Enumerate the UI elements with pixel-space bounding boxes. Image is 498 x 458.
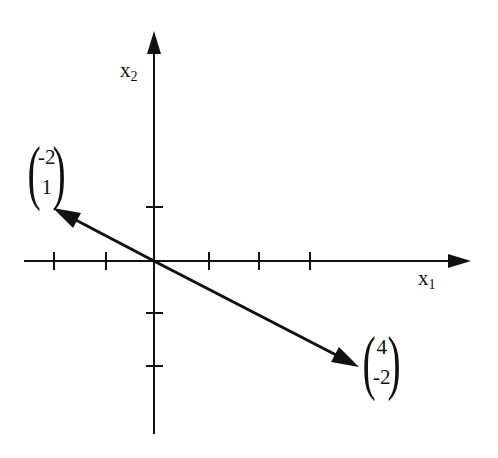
x-axis-label-subscript: 1 bbox=[429, 277, 436, 292]
y-axis-arrowhead-icon bbox=[147, 31, 161, 54]
x-axis bbox=[24, 254, 471, 268]
coordinate-plane bbox=[0, 0, 498, 458]
vector-label-neg2-1: ( -2 1 ) bbox=[22, 136, 71, 208]
vector-component-x: 4 bbox=[376, 332, 387, 362]
x-axis-arrowhead-icon bbox=[448, 254, 471, 268]
left-paren-icon: ( bbox=[362, 326, 375, 398]
vector-4-neg2 bbox=[154, 261, 359, 367]
vector-arrowhead-icon bbox=[331, 347, 359, 367]
vector-label-4-neg2: ( 4 -2 ) bbox=[357, 326, 406, 398]
right-paren-icon: ) bbox=[388, 326, 401, 398]
y-axis-label-base: x bbox=[120, 58, 131, 82]
x-axis-label: x1 bbox=[418, 266, 436, 293]
vector-component-y: 1 bbox=[41, 172, 52, 202]
y-axis bbox=[147, 31, 161, 434]
right-paren-icon: ) bbox=[53, 136, 66, 208]
y-axis-label-subscript: 2 bbox=[131, 69, 138, 84]
y-axis-label: x2 bbox=[120, 58, 138, 85]
left-paren-icon: ( bbox=[27, 136, 40, 208]
vector-neg2-1 bbox=[53, 208, 154, 261]
x-axis-label-base: x bbox=[418, 266, 429, 290]
